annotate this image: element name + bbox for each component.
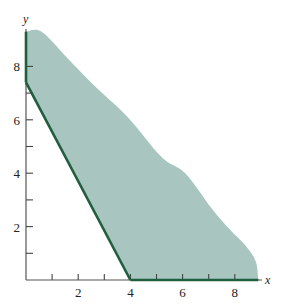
y-tick-label: 6 [14,113,21,128]
shaded-feasible-region [26,30,258,280]
x-tick-label: 2 [75,285,82,300]
y-tick-label: 2 [14,220,21,235]
y-tick-label: 8 [14,59,21,74]
x-tick-label: 4 [127,285,134,300]
feasible-region-chart: 2468 2468 x y [0,0,289,306]
y-tick-label: 4 [14,166,21,181]
x-tick-label: 8 [232,285,239,300]
plot-area: 2468 2468 x y [14,12,272,300]
x-tick-label: 6 [179,285,186,300]
x-axis-label: x [264,273,271,287]
y-axis-label: y [22,12,29,26]
